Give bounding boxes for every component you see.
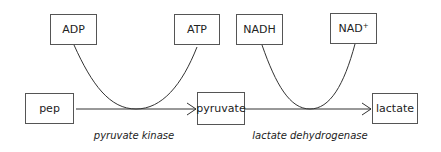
node-pyruvate-label: pyruvate bbox=[196, 102, 245, 115]
node-adp: ADP bbox=[50, 14, 97, 45]
cofactor-curve-adp-atp bbox=[74, 45, 197, 109]
node-nadh-label: NADH bbox=[243, 23, 276, 36]
node-lactate-label: lactate bbox=[376, 102, 414, 115]
node-atp-label: ATP bbox=[187, 23, 207, 36]
node-pyruvate: pyruvate bbox=[197, 92, 245, 125]
node-lactate: lactate bbox=[372, 93, 418, 124]
node-atp: ATP bbox=[174, 14, 220, 45]
nad-text: NAD bbox=[338, 22, 362, 35]
node-pep-label: pep bbox=[39, 102, 60, 115]
enzyme-lactate-dehydrogenase: lactate dehydrogenase bbox=[245, 130, 375, 141]
node-nad-plus-label: NAD+ bbox=[338, 22, 368, 35]
enzyme-pyruvate-kinase: pyruvate kinase bbox=[84, 130, 184, 141]
nad-superscript: + bbox=[363, 22, 369, 30]
cofactor-curve-nadh-nad bbox=[262, 44, 355, 109]
node-pep: pep bbox=[25, 93, 74, 124]
node-nad-plus: NAD+ bbox=[330, 13, 377, 44]
node-adp-label: ADP bbox=[62, 23, 85, 36]
node-nadh: NADH bbox=[236, 14, 283, 45]
